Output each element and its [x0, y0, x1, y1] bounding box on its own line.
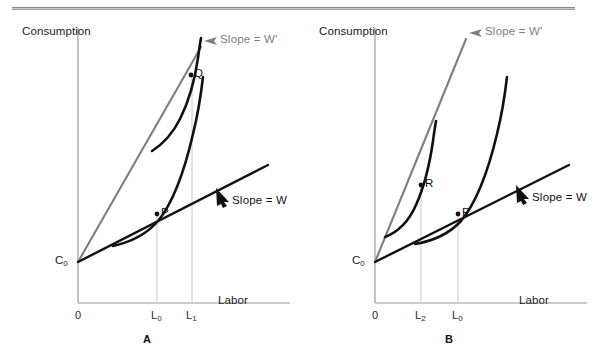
budget-line-w: [375, 165, 569, 262]
tick-origin-a: 0: [75, 309, 81, 321]
point-label-p-a: P: [161, 206, 169, 218]
y-axis-label-b: Consumption: [319, 25, 388, 37]
tick-l1-a: L1: [186, 309, 197, 321]
panel-b-plot: [297, 22, 594, 350]
point-marker-q: [189, 73, 194, 78]
point-label-r: R: [425, 177, 433, 189]
intercept-label-c0-b: C0: [352, 254, 365, 266]
annotation-slope-w-prime-a: Slope = W': [220, 33, 278, 45]
tick-origin-b: 0: [372, 309, 378, 321]
arrow-slope-w-prime-icon: [469, 29, 482, 37]
x-axis-label-a: Labor: [218, 294, 248, 306]
intercept-label-c0-a: C0: [55, 254, 68, 266]
intercept-subscript: 0: [360, 259, 364, 268]
point-marker-p: [456, 212, 461, 217]
tick-l0-a: L0: [151, 309, 162, 321]
annotation-slope-w-b: Slope = W: [532, 191, 587, 203]
tick-l0-b: L0: [452, 309, 463, 321]
panel-a: Consumption Labor C0 0 L0 L1 Q P Slope =…: [0, 22, 297, 350]
tick-l2-subscript: 2: [421, 314, 425, 323]
point-label-q: Q: [194, 67, 203, 79]
figure-root: Consumption Labor C0 0 L0 L1 Q P Slope =…: [0, 0, 594, 350]
point-marker-p: [155, 212, 160, 217]
panel-a-plot: [0, 22, 297, 350]
point-marker-r: [419, 183, 424, 188]
tick-l1-subscript: 1: [192, 314, 196, 323]
y-axis-label-a: Consumption: [22, 25, 91, 37]
arrow-slope-w-icon: [216, 188, 229, 208]
indifference-curve-low: [113, 77, 203, 246]
point-label-p-b: P: [462, 206, 470, 218]
panel-letter-a: A: [143, 333, 151, 345]
panel-letter-b: B: [445, 333, 453, 345]
x-axis-label-b: Labor: [519, 294, 549, 306]
annotation-slope-w-prime-b: Slope = W': [485, 25, 543, 37]
tick-l0-subscript: 0: [157, 314, 161, 323]
annotation-slope-w-a: Slope = W: [232, 194, 287, 206]
top-horizontal-rule: [12, 7, 575, 10]
tick-l2-b: L2: [415, 309, 426, 321]
panel-b: Consumption Labor C0 0 L2 L0 R P Slope =…: [297, 22, 594, 350]
tick-l0-subscript: 0: [458, 314, 462, 323]
intercept-subscript: 0: [63, 259, 67, 268]
arrow-slope-w-prime-icon: [204, 37, 217, 45]
